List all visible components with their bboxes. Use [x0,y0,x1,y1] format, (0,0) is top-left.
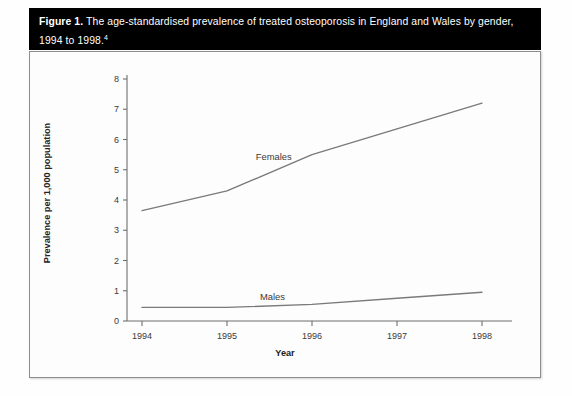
y-axis-tick-6: 6 [97,135,119,145]
y-axis-tick-0: 0 [97,316,119,326]
y-axis-tick-2: 2 [97,256,119,266]
x-axis-tick-1994: 1994 [119,331,165,341]
line-chart-svg [30,52,540,377]
y-axis-tick-8: 8 [97,74,119,84]
y-axis-title: Prevalence per 1,000 population [42,113,52,273]
y-axis-tick-1: 1 [97,286,119,296]
figure-title-bar: Figure 1. The age-standardised prevalenc… [29,8,541,50]
plot-area: 012345678 19941995199619971998 FemalesMa… [30,52,540,377]
figure-caption-text: The age-standardised prevalence of treat… [39,16,514,46]
y-axis-tick-7: 7 [97,104,119,114]
y-axis-tick-4: 4 [97,195,119,205]
x-axis-tick-1997: 1997 [374,331,420,341]
y-axis-tick-5: 5 [97,165,119,175]
figure-caption: Figure 1. The age-standardised prevalenc… [39,14,531,48]
figure-number-label: Figure 1. [39,16,83,27]
series-label-females: Females [256,151,292,162]
x-axis-tick-1998: 1998 [459,331,505,341]
figure-footnote-marker: 4 [104,34,108,41]
data-series-group [142,103,482,307]
y-axis-tick-3: 3 [97,225,119,235]
x-axis-tick-1995: 1995 [204,331,250,341]
x-axis-tick-1996: 1996 [289,331,335,341]
figure-container: Figure 1. The age-standardised prevalenc… [0,0,572,396]
chart-panel: 012345678 19941995199619971998 FemalesMa… [29,51,541,378]
x-axis-title: Year [30,348,540,358]
series-label-males: Males [260,291,285,302]
